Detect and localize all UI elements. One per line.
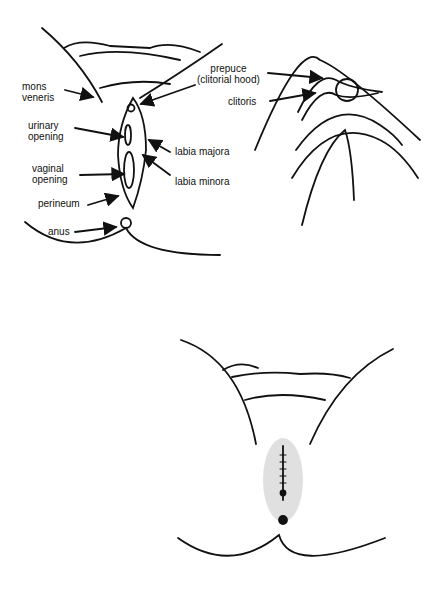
label-anus: anus [48, 226, 70, 237]
label-perineum: perineum [38, 198, 80, 209]
panel-a-arrows [65, 85, 195, 232]
label-mons: mons veneris [22, 81, 54, 103]
panel-c-outline [178, 340, 393, 556]
label-clitoris: clitoris [228, 96, 256, 107]
label-prepuce: prepuce (clitorial hood) [197, 63, 260, 85]
label-urinary: urinary opening [28, 120, 64, 142]
label-labia-minora: labia minora [175, 176, 229, 187]
anatomy-diagram [0, 0, 433, 592]
panel-b-detail [255, 57, 420, 225]
label-vaginal: vaginal opening [32, 163, 68, 185]
label-labia-majora: labia majora [175, 146, 229, 157]
